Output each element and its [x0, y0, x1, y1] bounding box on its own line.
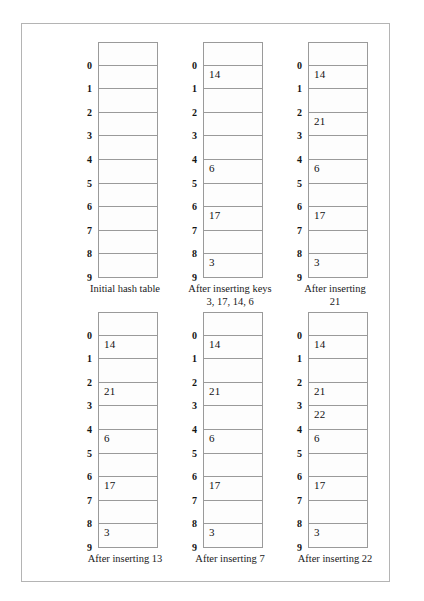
hash-slot-row: 321 — [276, 383, 394, 407]
hash-slot-row: 717 — [66, 477, 184, 501]
hash-slot-value: 6 — [314, 432, 320, 445]
hash-slot-row: 717 — [276, 207, 394, 231]
hash-slot-cell: 21 — [308, 383, 368, 407]
hash-slot-value: 3 — [104, 526, 110, 539]
hash-slot-row: 6 — [171, 454, 289, 478]
hash-slot-cell — [98, 184, 158, 208]
hash-slot-value: 17 — [314, 479, 326, 492]
hash-slot-cell — [98, 42, 158, 66]
hash-slot-cell: 14 — [203, 66, 263, 90]
hash-slot-cell: 3 — [308, 254, 368, 278]
hash-slot-row: 3 — [171, 113, 289, 137]
hash-slot-value: 3 — [209, 526, 215, 539]
hash-slot-row: 4 — [171, 406, 289, 430]
hash-slot-cell — [98, 312, 158, 336]
hash-slot-row: 0 — [171, 42, 289, 66]
hash-slot-row: 6 — [276, 454, 394, 478]
hash-slot-row: 422 — [276, 406, 394, 430]
hash-slot-cell — [203, 454, 263, 478]
hash-slot-cell — [308, 312, 368, 336]
hash-slot-index: 9 — [171, 272, 197, 283]
hash-slot-value: 3 — [314, 256, 320, 269]
hash-slot-cell: 3 — [203, 524, 263, 548]
hash-slot-value: 21 — [104, 385, 116, 398]
hash-slot-value: 6 — [104, 432, 110, 445]
hash-slot-cell — [98, 359, 158, 383]
hash-slot-cell: 17 — [203, 207, 263, 231]
hash-slot-row: 93 — [66, 524, 184, 548]
hash-slot-row: 321 — [276, 113, 394, 137]
hash-slot-cell — [308, 42, 368, 66]
hash-table-panel-after-inserting-keys-3-17-14-6: 0114234566717893After inserting keys 3, … — [171, 42, 289, 308]
hash-slot-value: 14 — [314, 68, 326, 81]
hash-table: 011423214566717893 — [66, 312, 184, 548]
hash-slot-row: 717 — [276, 477, 394, 501]
hash-slot-cell — [203, 136, 263, 160]
hash-slot-cell — [203, 406, 263, 430]
hash-slot-cell — [98, 254, 158, 278]
hash-slot-cell: 21 — [98, 383, 158, 407]
hash-slot-row: 4 — [276, 136, 394, 160]
hash-slot-row: 0 — [276, 312, 394, 336]
hash-slot-row: 1 — [66, 66, 184, 90]
hash-slot-value: 17 — [314, 209, 326, 222]
hash-slot-row: 56 — [171, 430, 289, 454]
hash-slot-row: 2 — [66, 89, 184, 113]
hash-slot-value: 22 — [314, 408, 326, 421]
hash-slot-row: 114 — [66, 336, 184, 360]
hash-slot-cell — [203, 501, 263, 525]
hash-slot-cell: 6 — [203, 430, 263, 454]
hash-slot-cell: 22 — [308, 406, 368, 430]
hash-slot-value: 6 — [209, 162, 215, 175]
hash-slot-value: 6 — [314, 162, 320, 175]
hash-slot-row: 6 — [171, 184, 289, 208]
hash-slot-row: 3 — [66, 113, 184, 137]
hash-slot-row: 717 — [171, 207, 289, 231]
hash-slot-cell — [308, 231, 368, 255]
hash-slot-cell — [98, 501, 158, 525]
hash-slot-row: 56 — [276, 430, 394, 454]
hash-slot-row: 4 — [66, 136, 184, 160]
hash-slot-value: 17 — [104, 479, 116, 492]
hash-slot-row: 114 — [171, 336, 289, 360]
hash-slot-cell: 6 — [98, 430, 158, 454]
hash-slot-cell — [308, 359, 368, 383]
hash-slot-row: 114 — [276, 66, 394, 90]
hash-slot-row: 7 — [66, 207, 184, 231]
hash-slot-row: 114 — [171, 66, 289, 90]
hash-slot-cell: 14 — [203, 336, 263, 360]
hash-table: 011423214566717893 — [171, 312, 289, 548]
hash-slot-value: 14 — [314, 338, 326, 351]
hash-table-panel-after-inserting-13: 011423214566717893After inserting 13 — [66, 312, 184, 566]
hash-slot-value: 14 — [104, 338, 116, 351]
hash-slot-cell: 17 — [308, 477, 368, 501]
hash-slot-row: 8 — [66, 501, 184, 525]
hash-slot-row: 6 — [276, 184, 394, 208]
hash-slot-row: 2 — [66, 359, 184, 383]
hash-slot-value: 3 — [314, 526, 320, 539]
hash-slot-row: 0 — [276, 42, 394, 66]
hash-slot-row: 56 — [66, 430, 184, 454]
hash-slot-value: 14 — [209, 338, 221, 351]
hash-table-panel-initial-hash-table: 0123456789Initial hash table — [66, 42, 184, 296]
hash-slot-row: 0 — [66, 312, 184, 336]
hash-slot-cell — [308, 136, 368, 160]
hash-slot-row: 2 — [171, 359, 289, 383]
hash-slot-row: 56 — [276, 160, 394, 184]
hash-slot-row: 2 — [276, 89, 394, 113]
hash-slot-row: 8 — [276, 501, 394, 525]
hash-slot-cell — [98, 454, 158, 478]
hash-slot-cell — [203, 89, 263, 113]
hash-table-panel-after-inserting-22: 01142321422566717893After inserting 22 — [276, 312, 394, 566]
hash-slot-cell — [98, 136, 158, 160]
hash-slot-row: 114 — [276, 336, 394, 360]
hash-slot-cell — [203, 359, 263, 383]
hash-slot-cell: 3 — [203, 254, 263, 278]
hash-slot-row: 321 — [171, 383, 289, 407]
hash-slot-value: 21 — [314, 115, 326, 128]
hash-slot-value: 21 — [209, 385, 221, 398]
hash-slot-cell — [203, 113, 263, 137]
hash-slot-row: 321 — [66, 383, 184, 407]
hash-slot-cell — [308, 454, 368, 478]
hash-slot-row: 2 — [171, 89, 289, 113]
